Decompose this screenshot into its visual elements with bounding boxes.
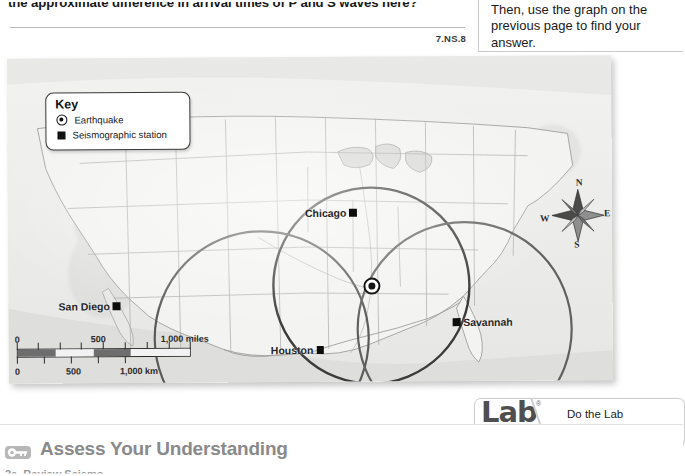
key-title: Key (55, 97, 78, 111)
map-figure: Key Earthquake Seismographic station Chi… (7, 55, 613, 384)
station-marker-icon (113, 302, 121, 310)
key-item-label: Earthquake (74, 114, 123, 125)
answer-write-in-line[interactable] (10, 27, 465, 28)
compass-west-label: W (540, 214, 550, 224)
scale-labels-miles: 0 500 1,000 miles (15, 334, 205, 347)
instruction-callout-box: Then, use the graph on the previous page… (478, 0, 683, 52)
city-name: Savannah (463, 316, 513, 328)
section-title: Assess Your Understanding (40, 438, 288, 460)
section-divider (0, 424, 683, 425)
question-area: the approximate difference in arrival ti… (0, 0, 478, 52)
earthquake-bullseye-icon (56, 114, 67, 125)
assess-your-understanding-section: Assess Your Understanding 2a. Review Sei… (0, 424, 683, 476)
assess-subitem: 2a. Review Seismo (5, 468, 103, 476)
map-key-box: Key Earthquake Seismographic station (45, 92, 190, 151)
compass-east-label: E (604, 208, 610, 218)
station-marker-icon (316, 346, 324, 354)
question-text: the approximate difference in arrival ti… (8, 0, 470, 11)
compass-rose: N E S W (536, 175, 613, 258)
map-scale-bar: 0 500 1,000 miles 0 500 1,000 km (15, 334, 205, 381)
instruction-text: Then, use the graph on the previous page… (491, 2, 667, 51)
station-marker-icon (349, 209, 357, 217)
scale-tick-label: 0 (15, 367, 20, 377)
earthquake-epicenter-marker (363, 278, 380, 295)
key-icon (5, 446, 31, 459)
station-marker-icon (453, 318, 461, 326)
city-label-chicago: Chicago (305, 207, 357, 219)
compass-north-label: N (576, 177, 583, 187)
compass-south-label: S (574, 239, 579, 249)
standard-code: 7.NS.8 (300, 33, 466, 44)
city-name: Houston (271, 344, 314, 356)
epicenter-center-dot (368, 283, 375, 290)
key-item-station: Seismographic station (56, 129, 166, 141)
city-label-san-diego: San Diego (58, 300, 120, 312)
scale-tick-label: 500 (66, 366, 81, 376)
scale-tick-label: 1,000 km (120, 366, 158, 376)
key-item-earthquake: Earthquake (56, 114, 123, 125)
city-label-savannah: Savannah (453, 316, 513, 328)
registered-trademark-icon: ® (536, 400, 541, 407)
city-name: San Diego (58, 300, 109, 312)
key-item-label: Seismographic station (72, 129, 166, 141)
city-name: Chicago (305, 207, 346, 219)
city-label-houston: Houston (271, 344, 324, 356)
seismographic-station-square-icon (57, 131, 65, 139)
scale-labels-km: 0 500 1,000 km (15, 366, 205, 379)
